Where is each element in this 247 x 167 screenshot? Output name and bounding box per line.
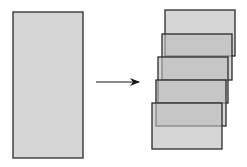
stacked-rectangle-5 [152,103,222,149]
transformation-diagram [0,0,247,167]
source-rectangle [13,12,83,158]
source-rectangle-shape [13,12,83,158]
stacked-rectangles [152,10,235,149]
